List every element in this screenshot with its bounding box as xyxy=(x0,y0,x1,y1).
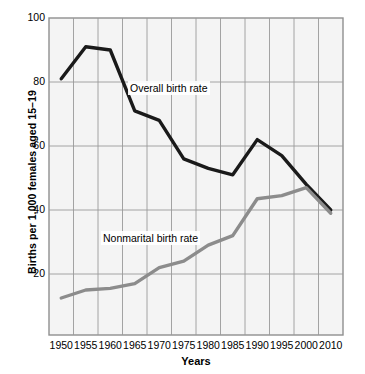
annotation-nonmarital-birth-rate: Nonmarital birth rate xyxy=(101,231,200,245)
x-tick-label: 2010 xyxy=(314,340,348,351)
x-axis-tick-labels: 1950195519601965197019751980198519901995… xyxy=(0,0,365,374)
x-axis-title: Years xyxy=(49,355,343,367)
teen-birth-rate-line-chart: Births per 1,000 females aged 15–19 2040… xyxy=(0,0,365,374)
annotation-overall-birth-rate: Overall birth rate xyxy=(128,81,210,95)
